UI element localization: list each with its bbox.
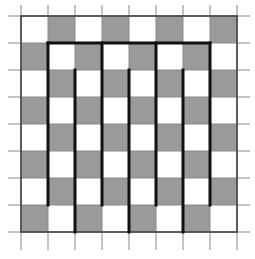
light-cell	[102, 205, 129, 232]
dark-cell	[48, 70, 75, 97]
light-cell	[210, 205, 237, 232]
light-cell	[129, 178, 156, 205]
dark-cell	[156, 70, 183, 97]
light-cell	[102, 97, 129, 124]
light-cell	[183, 70, 210, 97]
light-cell	[21, 70, 48, 97]
light-cell	[48, 43, 75, 70]
dark-cell	[75, 205, 102, 232]
light-cell	[156, 151, 183, 178]
light-cell	[75, 70, 102, 97]
dark-cell	[48, 16, 75, 43]
dark-cell	[156, 178, 183, 205]
light-cell	[21, 124, 48, 151]
dark-cell	[75, 151, 102, 178]
light-cell	[210, 97, 237, 124]
dark-cell	[129, 205, 156, 232]
dark-cell	[21, 205, 48, 232]
light-cell	[129, 124, 156, 151]
dark-cell	[129, 151, 156, 178]
light-cell	[75, 124, 102, 151]
light-cell	[210, 151, 237, 178]
light-cell	[129, 70, 156, 97]
dark-cell	[75, 97, 102, 124]
light-cell	[48, 205, 75, 232]
dark-cell	[183, 43, 210, 70]
light-cell	[102, 43, 129, 70]
dark-cell	[210, 178, 237, 205]
dark-cell	[21, 43, 48, 70]
light-cell	[129, 16, 156, 43]
dark-cell	[183, 151, 210, 178]
dark-cell	[21, 97, 48, 124]
dark-cell	[183, 97, 210, 124]
dark-cell	[210, 16, 237, 43]
dark-cell	[156, 124, 183, 151]
light-cell	[48, 97, 75, 124]
light-cell	[156, 97, 183, 124]
dark-cell	[210, 124, 237, 151]
dark-cell	[48, 124, 75, 151]
checkerboard-diagram	[0, 0, 255, 259]
dark-cell	[210, 70, 237, 97]
dark-cell	[102, 70, 129, 97]
light-cell	[183, 16, 210, 43]
light-cell	[21, 16, 48, 43]
dark-cell	[48, 178, 75, 205]
light-cell	[75, 16, 102, 43]
dark-cell	[129, 97, 156, 124]
dark-cell	[102, 16, 129, 43]
dark-cell	[156, 16, 183, 43]
dark-cell	[21, 151, 48, 178]
light-cell	[156, 43, 183, 70]
light-cell	[210, 43, 237, 70]
light-cell	[102, 151, 129, 178]
light-cell	[183, 124, 210, 151]
dark-cell	[102, 124, 129, 151]
light-cell	[156, 205, 183, 232]
dark-cell	[183, 205, 210, 232]
light-cell	[75, 178, 102, 205]
dark-cell	[129, 43, 156, 70]
light-cell	[183, 178, 210, 205]
light-cell	[48, 151, 75, 178]
dark-cell	[102, 178, 129, 205]
light-cell	[21, 178, 48, 205]
dark-cell	[75, 43, 102, 70]
